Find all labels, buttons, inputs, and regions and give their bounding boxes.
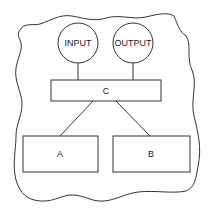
node-b: B	[113, 136, 190, 172]
node-b-label: B	[148, 149, 154, 159]
node-c-label: C	[103, 86, 110, 96]
diagram-canvas: INPUT OUTPUT C A B	[0, 0, 209, 213]
node-output-label: OUTPUT	[115, 38, 153, 48]
node-input: INPUT	[58, 23, 98, 63]
node-a: A	[23, 136, 98, 172]
node-c: C	[51, 80, 161, 101]
edge-c-b	[116, 101, 150, 136]
edge-c-a	[60, 101, 93, 136]
node-input-label: INPUT	[65, 38, 93, 48]
node-a-label: A	[57, 149, 63, 159]
system-boundary	[14, 14, 199, 201]
node-output: OUTPUT	[113, 23, 153, 63]
